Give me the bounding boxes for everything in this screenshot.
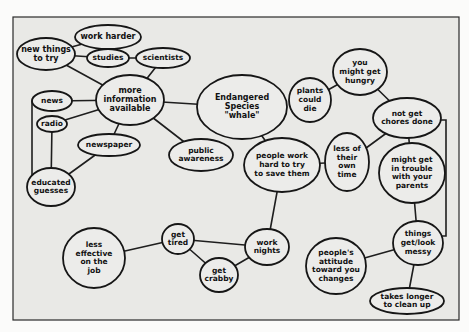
- node-label: might getin troublewith yourparents: [391, 155, 433, 190]
- node-label: studies: [93, 53, 124, 62]
- node-label: people'sattitudetoward youchanges: [312, 248, 360, 283]
- node-educated-guesses: educatedguesses: [27, 168, 75, 206]
- node-label: thingsget/lookmessy: [401, 229, 437, 255]
- node-work-harder: work harder: [75, 25, 141, 49]
- node-label: educatedguesses: [31, 178, 70, 196]
- node-label: radio: [41, 119, 63, 128]
- node-more-information-available: moreinformationavailable: [96, 75, 164, 125]
- node-label: news: [41, 96, 63, 105]
- node-radio: radio: [37, 116, 67, 132]
- node-takes-longer-to-clean-up: takes longerto clean up: [370, 288, 444, 314]
- node-things-get-look-messy: thingsget/lookmessy: [393, 221, 443, 265]
- node-endangered-species-whale: EndangeredSpecies"whale": [197, 75, 287, 139]
- node-newspaper: newspaper: [78, 134, 140, 156]
- node-less-of-their-own-time: less oftheirowntime: [325, 133, 369, 191]
- node-get-tired: gettired: [162, 224, 194, 254]
- node-might-get-in-trouble: might getin troublewith yourparents: [379, 143, 445, 203]
- node-label: takes longerto clean up: [381, 292, 434, 310]
- node-work-nights: worknights: [245, 229, 289, 265]
- node-label: people workhard to tryto save them: [254, 151, 309, 177]
- node-label: newspaper: [86, 140, 133, 149]
- node-label: scientists: [143, 53, 184, 62]
- node-label: work harder: [80, 32, 135, 41]
- node-you-might-get-hungry: youmight gethungry: [333, 49, 387, 95]
- node-get-crabby: getcrabby: [200, 258, 238, 292]
- concept-map-canvas: new thingsto trywork harderstudiesscient…: [0, 0, 469, 332]
- node-not-get-chores-done: not getchores done: [373, 98, 441, 138]
- node-public-awareness: publicawareness: [169, 139, 233, 171]
- node-label: worknights: [254, 238, 281, 256]
- node-plants-could-die: plantscoulddie: [289, 78, 331, 122]
- node-peoples-attitude: people'sattitudetoward youchanges: [306, 238, 366, 294]
- node-new-things-to-try: new thingsto try: [17, 38, 75, 70]
- node-less-effective-on-the-job: lesseffectiveon thejob: [63, 228, 125, 288]
- node-scientists: scientists: [136, 48, 190, 68]
- concept-map-diagram: new thingsto trywork harderstudiesscient…: [0, 0, 469, 332]
- node-news: news: [32, 91, 72, 111]
- node-studies: studies: [87, 49, 129, 67]
- node-people-work-hard: people workhard to tryto save them: [244, 138, 320, 192]
